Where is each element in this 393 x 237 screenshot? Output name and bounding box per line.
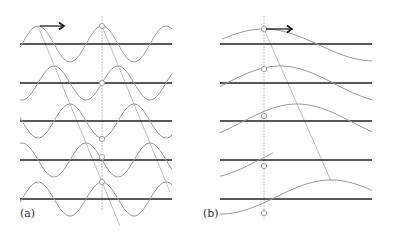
panel-b-label: (b) [203,207,219,220]
marker-b-0 [261,26,266,31]
phase-line-b [264,29,331,181]
marker-b-4 [261,210,266,215]
panel-a-label: (a) [20,207,35,220]
wave-b-0 [222,29,372,61]
marker-b-3 [261,163,266,168]
marker-b-1 [261,66,266,71]
marker-b-2 [261,113,266,118]
marker-a-4 [99,179,104,184]
marker-a-2 [99,136,104,141]
marker-a-1 [99,80,104,85]
phase-line-a2 [102,26,170,192]
wave-b-2 [220,104,372,133]
marker-a-0 [99,23,104,28]
marker-a-3 [99,154,104,159]
wave-diagram [0,0,393,237]
wave-b-4 [220,180,372,214]
